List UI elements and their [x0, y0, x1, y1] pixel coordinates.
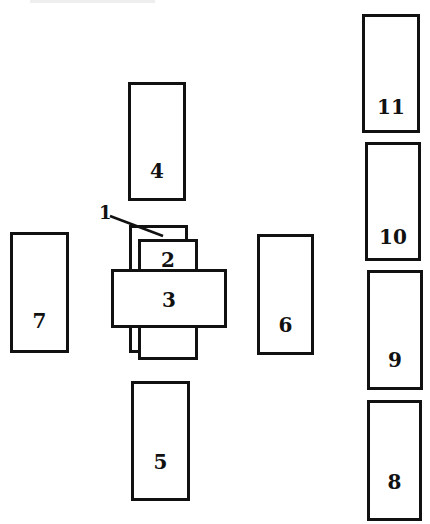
leader-line-1: [0, 0, 430, 524]
block-diagram: 11 10 9 8 7 4 5 6 2 3 1: [0, 0, 430, 524]
